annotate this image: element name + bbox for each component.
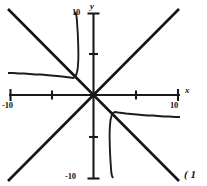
coordinate-plot bbox=[0, 0, 207, 186]
x-axis-tick-label-right: 10 bbox=[170, 101, 178, 110]
y-axis-tick-label-top: 10 bbox=[72, 8, 80, 17]
x-axis-name-label: x bbox=[185, 86, 190, 95]
y-axis-tick-label-bottom: -10 bbox=[65, 172, 76, 181]
figure-caption-fragment: ( 1 bbox=[184, 168, 196, 180]
x-axis-tick-label-left: -10 bbox=[2, 101, 13, 110]
y-axis-name-label: y bbox=[90, 2, 94, 11]
graph-figure: 10 -10 -10 10 y x ( 1 bbox=[0, 0, 207, 186]
